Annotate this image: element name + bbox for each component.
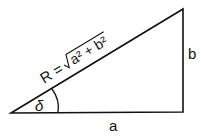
- triangle-diagram: δ a b R = a² + b²: [0, 0, 201, 136]
- vertical-side-label: b: [188, 45, 196, 62]
- horizontal-side-label: a: [109, 117, 118, 134]
- formula-radicand: a² + b²: [67, 33, 111, 68]
- angle-arc: [52, 89, 58, 112]
- angle-label: δ: [35, 97, 44, 114]
